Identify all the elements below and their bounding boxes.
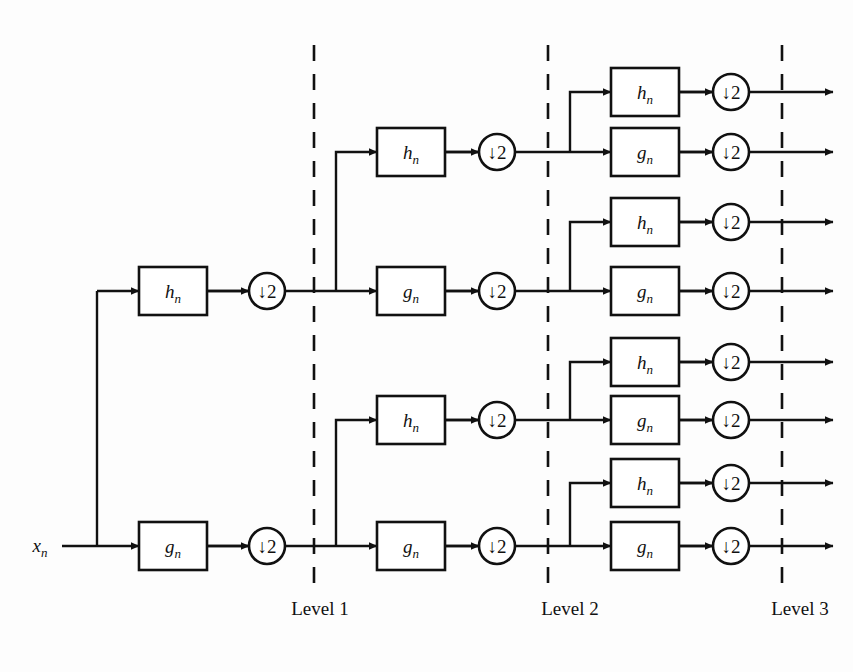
downsample-label-L2-gg: ↓2 — [488, 536, 507, 557]
filter-stage-L3-ghg: gn — [611, 396, 679, 444]
downsample-label-L3-hhh: ↓2 — [722, 82, 741, 103]
downsample-label-L1-g: ↓2 — [258, 536, 277, 557]
downsampler-L3-hhg: ↓2 — [713, 134, 749, 170]
wire-branch-L3-hhh — [570, 92, 611, 152]
filter-stage-L1-g: gn — [139, 522, 207, 570]
wire-branch-L2-hh — [336, 152, 377, 291]
downsampler-L1-h: ↓2 — [249, 273, 285, 309]
filter-stage-L2-gh: hn — [377, 396, 445, 444]
filter-stage-L2-hg: gn — [377, 267, 445, 315]
filter-stage-L3-ggg: gn — [611, 522, 679, 570]
downsample-label-L3-hhg: ↓2 — [722, 142, 741, 163]
downsample-label-L1-h: ↓2 — [258, 281, 277, 302]
downsample-label-L3-hgh: ↓2 — [722, 212, 741, 233]
downsampler-L3-ghh: ↓2 — [713, 344, 749, 380]
downsampler-L3-ggh: ↓2 — [713, 465, 749, 501]
downsampler-L3-hgh: ↓2 — [713, 204, 749, 240]
input-signal-label: xn — [32, 535, 48, 560]
downsample-label-L2-hh: ↓2 — [488, 142, 507, 163]
wavelet-packet-tree-diagram: hn↓2gn↓2hn↓2gn↓2hn↓2gn↓2hn↓2gn↓2hn↓2gn↓2… — [0, 0, 853, 672]
wire-branch-L3-ghh — [570, 362, 611, 420]
downsampler-L2-hh: ↓2 — [479, 134, 515, 170]
level-caption-2: Level 2 — [541, 598, 599, 619]
level-caption-3: Level 3 — [771, 598, 829, 619]
downsampler-L3-hhh: ↓2 — [713, 74, 749, 110]
filter-stage-L3-hgg: gn — [611, 267, 679, 315]
downsampler-L2-hg: ↓2 — [479, 273, 515, 309]
downsample-label-L3-ghg: ↓2 — [722, 410, 741, 431]
downsample-label-L3-ggg: ↓2 — [722, 536, 741, 557]
downsampler-L3-ghg: ↓2 — [713, 402, 749, 438]
downsampler-L3-hgg: ↓2 — [713, 273, 749, 309]
level-dividers — [314, 45, 782, 588]
downsampler-L2-gh: ↓2 — [479, 402, 515, 438]
downsample-label-L3-hgg: ↓2 — [722, 281, 741, 302]
wire-branch-L3-ggh — [570, 483, 611, 546]
filter-stage-L3-hgh: hn — [611, 198, 679, 246]
filter-stage-L2-gg: gn — [377, 522, 445, 570]
filter-stage-L3-hhh: hn — [611, 68, 679, 116]
wire-branch-L2-gh — [336, 420, 377, 546]
level-caption-1: Level 1 — [291, 598, 349, 619]
filter-stage-L3-ggh: hn — [611, 459, 679, 507]
filter-stage-L3-ghh: hn — [611, 338, 679, 386]
downsampler-L1-g: ↓2 — [249, 528, 285, 564]
downsample-label-L3-ggh: ↓2 — [722, 473, 741, 494]
filter-stage-L2-hh: hn — [377, 128, 445, 176]
downsample-label-L2-gh: ↓2 — [488, 410, 507, 431]
filter-stage-L3-hhg: gn — [611, 128, 679, 176]
downsampler-L3-ggg: ↓2 — [713, 528, 749, 564]
filter-stage-L1-h: hn — [139, 267, 207, 315]
downsampler-L2-gg: ↓2 — [479, 528, 515, 564]
filter-blocks: hn↓2gn↓2hn↓2gn↓2hn↓2gn↓2hn↓2gn↓2hn↓2gn↓2… — [139, 68, 749, 570]
figure-canvas: hn↓2gn↓2hn↓2gn↓2hn↓2gn↓2hn↓2gn↓2hn↓2gn↓2… — [0, 0, 853, 672]
downsample-label-L3-ghh: ↓2 — [722, 352, 741, 373]
wire-branch-L3-hgh — [570, 222, 611, 291]
downsample-label-L2-hg: ↓2 — [488, 281, 507, 302]
